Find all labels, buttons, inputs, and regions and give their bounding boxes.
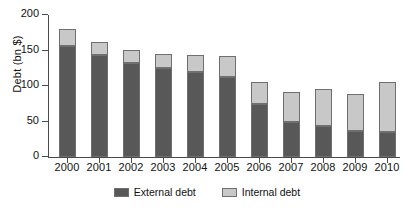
bar-2001	[91, 42, 108, 157]
bar-segment-external-2007	[283, 122, 300, 158]
stacked-bar-chart: Debt (bn $) 0501001502002000200120022003…	[0, 0, 414, 212]
bar-segment-internal-2004	[187, 55, 204, 71]
x-axis-label-2008: 2008	[305, 161, 341, 173]
bar-segment-external-2009	[347, 131, 364, 157]
x-axis-line	[48, 157, 400, 158]
bar-segment-internal-2000	[59, 29, 76, 46]
x-axis-label-2005: 2005	[209, 161, 245, 173]
y-axis-tick-label: 0	[33, 149, 39, 161]
bar-segment-internal-2008	[315, 89, 332, 127]
x-axis-label-2004: 2004	[177, 161, 213, 173]
y-axis-tick-label: 100	[21, 78, 39, 90]
legend-label: Internal debt	[242, 186, 300, 198]
x-axis-label-2002: 2002	[113, 161, 149, 173]
bar-segment-internal-2007	[283, 92, 300, 121]
y-axis-tick: 50	[42, 121, 48, 122]
bar-2000	[59, 29, 76, 158]
bar-2005	[219, 56, 236, 157]
x-axis-label-2007: 2007	[273, 161, 309, 173]
y-axis-tick-label: 50	[27, 114, 39, 126]
bar-2004	[187, 55, 204, 157]
bar-segment-internal-2003	[155, 54, 172, 68]
bar-2008	[315, 89, 332, 157]
bar-segment-internal-2001	[91, 42, 108, 55]
legend-item-external-debt: External debt	[114, 186, 196, 198]
legend-swatch-icon	[222, 188, 237, 197]
x-axis-label-2006: 2006	[241, 161, 277, 173]
bar-2002	[123, 50, 140, 157]
bar-segment-external-2002	[123, 63, 140, 157]
bar-2003	[155, 54, 172, 157]
y-axis-tick-label: 200	[21, 7, 39, 19]
bar-2010	[379, 82, 396, 157]
bar-segment-internal-2010	[379, 82, 396, 132]
bar-segment-external-2003	[155, 68, 172, 157]
y-axis-line	[48, 15, 49, 158]
bar-segment-internal-2002	[123, 50, 140, 63]
bar-segment-external-2004	[187, 72, 204, 157]
bar-segment-external-2000	[59, 46, 76, 157]
bar-segment-internal-2005	[219, 56, 236, 77]
legend-label: External debt	[134, 186, 196, 198]
x-axis-label-2001: 2001	[81, 161, 117, 173]
bar-segment-external-2010	[379, 132, 396, 157]
bar-segment-internal-2006	[251, 82, 268, 105]
bar-segment-internal-2009	[347, 94, 364, 131]
bar-segment-external-2005	[219, 77, 236, 157]
y-axis-title: Debt (bn $)	[11, 26, 23, 102]
x-axis-label-2000: 2000	[49, 161, 85, 173]
plot-area: 0501001502002000200120022003200420052006…	[48, 15, 400, 158]
y-axis-tick: 0	[42, 156, 48, 157]
bar-2007	[283, 92, 300, 157]
bar-segment-external-2008	[315, 126, 332, 157]
x-axis-label-2003: 2003	[145, 161, 181, 173]
y-axis-tick: 100	[42, 85, 48, 86]
x-axis-label-2009: 2009	[337, 161, 373, 173]
legend-item-internal-debt: Internal debt	[222, 186, 300, 198]
bar-2006	[251, 82, 268, 157]
y-axis-tick: 150	[42, 50, 48, 51]
chart-legend: External debtInternal debt	[0, 186, 414, 198]
y-axis-tick: 200	[42, 14, 48, 15]
legend-swatch-icon	[114, 188, 129, 197]
bar-segment-external-2006	[251, 104, 268, 157]
x-axis-label-2010: 2010	[369, 161, 405, 173]
bar-segment-external-2001	[91, 55, 108, 157]
y-axis-tick-label: 150	[21, 43, 39, 55]
bar-2009	[347, 94, 364, 157]
